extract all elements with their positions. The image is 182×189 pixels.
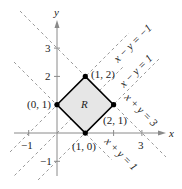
x-tick-3: 3: [138, 139, 144, 151]
x-axis-arrow: [158, 131, 166, 136]
vertex-0-1: [54, 102, 59, 107]
y-tick-2: 2: [45, 70, 51, 82]
vertex-1-2: [83, 74, 88, 79]
y-tick-3: 3: [45, 42, 51, 54]
line-label-x-plus-y-eq-1: x + y = 1: [102, 134, 140, 172]
line-label-x-plus-y-eq-3: x + y = 3: [122, 90, 161, 129]
vertex-label-2-1: (2, 1): [103, 114, 127, 127]
vertex-label-1-0: (1, 0): [72, 140, 96, 153]
y-axis-arrow: [55, 20, 60, 28]
vertex-label-0-1: (0, 1): [27, 98, 51, 111]
y-tick-neg1: −1: [40, 155, 52, 167]
vertex-label-1-2: (1, 2): [91, 68, 115, 81]
region-diagram: y x −1 3 −1 2 3 R (0, 1) (1, 2) (2, 1) (…: [0, 0, 182, 189]
vertex-1-0: [83, 130, 88, 135]
y-axis-label: y: [53, 6, 59, 18]
vertex-2-1: [111, 102, 116, 107]
x-axis-label: x: [168, 127, 174, 139]
x-tick-neg1: −1: [21, 139, 33, 151]
region-label: R: [80, 98, 88, 110]
